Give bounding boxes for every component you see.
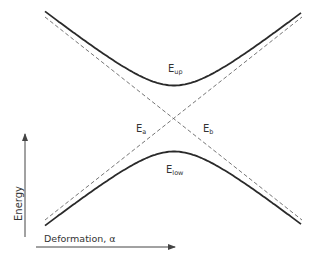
deformation-axis-label: Deformation, α: [44, 234, 116, 244]
diabatic-b-label: Eb: [203, 124, 213, 136]
label-subscript: up: [174, 68, 182, 76]
diabatic-a-label: Ea: [136, 124, 146, 136]
label-subscript: b: [209, 128, 213, 136]
lower-curve-label: Elow: [166, 165, 183, 177]
label-subscript: a: [142, 128, 146, 136]
energy-axis-label: Energy: [13, 186, 24, 221]
diagram-canvas: [0, 0, 315, 262]
label-subscript: low: [172, 169, 183, 177]
upper-curve-label: Eup: [168, 64, 183, 76]
lower-energy-curve: [45, 152, 301, 226]
